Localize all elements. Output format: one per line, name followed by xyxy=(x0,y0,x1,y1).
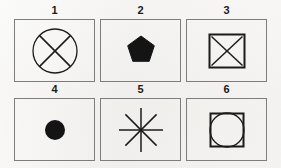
figure-panel-6: 6 xyxy=(186,83,267,162)
panel-label-1: 1 xyxy=(51,4,57,19)
filled-circle-icon xyxy=(30,105,80,155)
panel-frame-5 xyxy=(100,98,181,161)
square-with-diagonal-cross-icon xyxy=(202,26,252,76)
figure-panel-3: 3 xyxy=(186,4,267,83)
panel-label-6: 6 xyxy=(223,83,229,98)
panel-frame-3 xyxy=(186,19,267,82)
panel-frame-1 xyxy=(14,19,95,82)
panel-frame-2 xyxy=(100,19,181,82)
figure-panel-5: 5 xyxy=(100,83,181,162)
square-with-inscribed-circle-icon xyxy=(202,105,252,155)
figure-panel-1: 1 xyxy=(14,4,95,83)
eight-ray-asterisk-icon xyxy=(116,105,166,155)
filled-pentagon-icon xyxy=(116,26,166,76)
panel-label-5: 5 xyxy=(137,83,143,98)
figure-panel-4: 4 xyxy=(14,83,95,162)
panel-frame-4 xyxy=(14,98,95,161)
circle-with-diagonal-cross-icon xyxy=(30,26,80,76)
panel-label-3: 3 xyxy=(223,4,229,19)
figure-panel-2: 2 xyxy=(100,4,181,83)
panel-frame-6 xyxy=(186,98,267,161)
panel-label-4: 4 xyxy=(51,83,57,98)
panel-label-2: 2 xyxy=(137,4,143,19)
figure-panel-grid: 1 2 3 4 xyxy=(14,4,267,162)
